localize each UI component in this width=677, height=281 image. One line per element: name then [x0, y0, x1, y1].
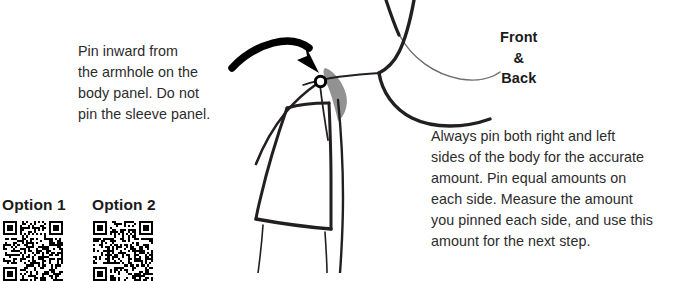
armhole-curve	[256, 83, 318, 164]
qr-code-option-2-image[interactable]	[93, 221, 153, 281]
instruction-pin-inward: Pin inward from the armhole on the body …	[78, 41, 210, 125]
front-and-back-label: Front & Back	[500, 27, 538, 89]
body-side-seam	[338, 100, 343, 273]
sleeve-hem	[256, 219, 331, 229]
pin-head-icon	[315, 76, 325, 86]
hem-drop-line-right	[325, 232, 327, 273]
option-1-label: Option 1	[2, 196, 66, 214]
qr-code-option-1-image[interactable]	[3, 221, 63, 281]
body-right-curve	[379, 0, 414, 73]
hem-drop-line-left	[258, 225, 263, 273]
qr-code-option-1[interactable]	[3, 221, 63, 281]
sleeve-left-edge	[256, 108, 287, 219]
option-2-label: Option 2	[92, 196, 156, 214]
back-neckline	[400, 36, 500, 80]
sleeve-right-edge	[329, 103, 331, 229]
curved-arrow-shaft	[232, 41, 309, 68]
pin-needle	[320, 85, 328, 140]
neck-seam-upper	[386, 0, 399, 35]
instruction-always-pin: Always pin both right and left sides of …	[431, 126, 653, 252]
front-neckline	[379, 73, 490, 126]
qr-code-option-2[interactable]	[93, 221, 153, 281]
